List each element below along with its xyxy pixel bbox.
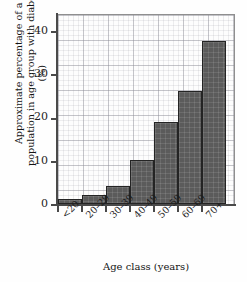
x-tick-mark-4 xyxy=(153,206,155,212)
y-tick-label-0: 0 xyxy=(8,199,48,209)
x-tick-mark-0 xyxy=(57,206,59,212)
plot-area xyxy=(57,14,235,205)
x-tick-mark-6 xyxy=(201,206,203,212)
y-tick-label-10: 10 xyxy=(8,156,48,166)
bar-age-70-plus xyxy=(202,41,226,204)
y-tick-label-40: 40 xyxy=(8,26,48,36)
x-tick-mark-2 xyxy=(105,206,107,212)
y-tick-label-30: 30 xyxy=(8,69,48,79)
y-tick-label-20: 20 xyxy=(8,112,48,122)
x-tick-mark-1 xyxy=(81,206,83,212)
y-axis-line xyxy=(56,13,58,206)
figure-canvas: Approximate percentage of a population i… xyxy=(0,0,247,282)
x-tick-mark-5 xyxy=(177,206,179,212)
bar-age-60-69 xyxy=(178,91,202,204)
x-tick-mark-3 xyxy=(129,206,131,212)
x-axis-title: Age class (years) xyxy=(57,261,235,272)
